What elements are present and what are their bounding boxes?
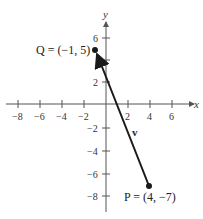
y-tick-label: 6: [93, 33, 98, 44]
x-tick-label: 4: [147, 111, 152, 122]
x-ticks: −8 −6 −4 −2 2 4 6: [12, 100, 174, 122]
coordinate-plane: x y −8 −6 −4 −2 2 4 6 6 2 −2 −4 −6 −8: [0, 0, 203, 219]
point-q: [92, 47, 98, 53]
x-tick-label: −6: [34, 111, 45, 122]
x-tick-label: −2: [78, 111, 89, 122]
point-p: [146, 183, 152, 189]
x-tick-label: −4: [56, 111, 67, 122]
y-tick-label: 2: [93, 77, 98, 88]
x-tick-label: −8: [12, 111, 23, 122]
y-tick-label: −4: [87, 146, 98, 157]
x-tick-label: 2: [125, 111, 130, 122]
point-q-label: Q = (−1, 5): [36, 43, 90, 57]
y-tick-label: −2: [87, 123, 98, 134]
point-p-label: P = (4, −7): [124, 190, 176, 204]
vector-v: [97, 54, 149, 186]
x-axis-label: x: [193, 98, 199, 110]
y-tick-label: −6: [87, 169, 98, 180]
y-tick-label: −8: [87, 191, 98, 202]
vector-label: v: [132, 126, 138, 138]
x-tick-label: 6: [169, 111, 174, 122]
y-axis-label: y: [102, 8, 108, 20]
